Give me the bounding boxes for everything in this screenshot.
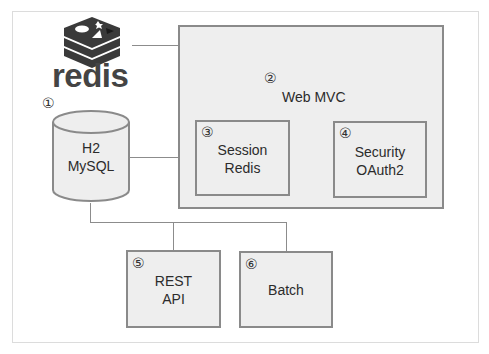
batch-number: ⑥	[245, 257, 258, 271]
session-redis-line-1: Session	[195, 141, 290, 159]
connector-batch-drop	[286, 222, 287, 252]
web-mvc-number: ②	[264, 71, 277, 85]
security-oauth2-line-2: OAuth2	[333, 161, 427, 179]
session-redis-line-2: Redis	[195, 159, 290, 177]
connector-bus	[90, 222, 287, 223]
rest-api-line-2: API	[126, 290, 221, 308]
web-mvc-label: Web MVC	[282, 88, 346, 106]
database-line-2: MySQL	[52, 157, 130, 175]
security-oauth2-label: Security OAuth2	[333, 143, 427, 179]
batch-line-1: Batch	[239, 281, 333, 299]
connector-db-down	[90, 203, 91, 223]
database-line-1: H2	[52, 139, 130, 157]
rest-api-line-1: REST	[126, 272, 221, 290]
session-redis-number: ③	[201, 125, 214, 139]
rest-api-label: REST API	[126, 272, 221, 308]
security-oauth2-number: ④	[339, 126, 352, 140]
connector-rest-drop	[173, 222, 174, 251]
session-redis-label: Session Redis	[195, 141, 290, 177]
connector-db-webmvc	[129, 157, 179, 158]
rest-api-number: ⑤	[132, 256, 145, 270]
database-number: ①	[42, 96, 55, 110]
security-oauth2-line-1: Security	[333, 143, 427, 161]
database-label: H2 MySQL	[52, 139, 130, 175]
batch-label: Batch	[239, 281, 333, 299]
redis-logo-text: redis	[52, 58, 128, 94]
